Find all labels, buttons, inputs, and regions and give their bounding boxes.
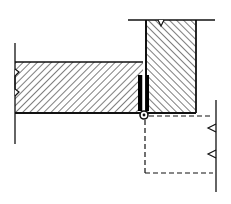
break-symbol-icon — [208, 150, 216, 158]
break-symbol-icon — [208, 124, 216, 132]
door-leaf — [15, 62, 143, 113]
hinge-leaf — [146, 75, 149, 111]
right-reference-line — [208, 100, 216, 192]
hinge-section-diagram — [0, 0, 231, 204]
open-position-outline — [145, 116, 213, 173]
